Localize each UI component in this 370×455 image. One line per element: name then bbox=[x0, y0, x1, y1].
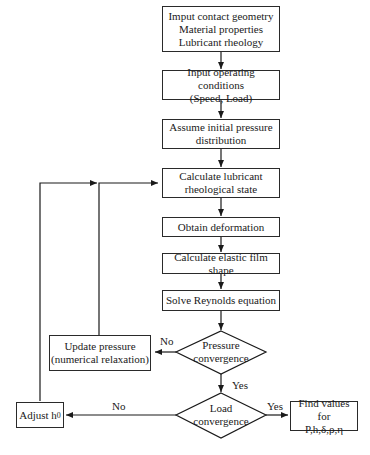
node-text: (numerical relaxation) bbox=[51, 353, 149, 366]
node-text: Material properties bbox=[179, 23, 263, 36]
node-text: Calculate lubricant bbox=[179, 170, 262, 183]
node-text: distribution bbox=[196, 134, 247, 147]
node-text: Assume initial pressure bbox=[169, 121, 272, 134]
node-update-pressure: Update pressure (numerical relaxation) bbox=[49, 335, 151, 371]
node-assume-pressure: Assume initial pressure distribution bbox=[162, 119, 280, 149]
node-text: Solve Reynolds equation bbox=[166, 294, 276, 307]
edge-label-pressure-no: No bbox=[160, 335, 173, 347]
node-text: Load bbox=[186, 402, 256, 415]
edge-label-load-yes: Yes bbox=[267, 400, 283, 412]
node-pressure-convergence: Pressure convergence bbox=[186, 339, 256, 365]
edge-label-load-no: No bbox=[112, 400, 125, 412]
node-text: Input operating conditions bbox=[163, 66, 279, 92]
node-text: convergence bbox=[186, 415, 256, 428]
node-text: Update pressure bbox=[64, 340, 135, 353]
node-reynolds: Solve Reynolds equation bbox=[162, 290, 280, 311]
subscript: 0 bbox=[57, 409, 61, 422]
node-input-geometry: Imput contact geometry Material properti… bbox=[162, 6, 280, 52]
edge-label-pressure-yes: Yes bbox=[232, 379, 248, 391]
node-input-conditions: Input operating conditions (Speed, Load) bbox=[162, 70, 280, 100]
node-text: Lubricant rheology bbox=[179, 36, 264, 49]
node-load-convergence: Load convergence bbox=[186, 402, 256, 428]
node-text: Pressure bbox=[186, 339, 256, 352]
node-find-values: Find values for P,h,δ,ρ,η bbox=[290, 401, 358, 431]
node-film-shape: Calculate elastic film shape bbox=[162, 253, 280, 274]
node-text: Obtain deformation bbox=[178, 221, 264, 234]
node-text: P,h,δ,ρ,η bbox=[305, 423, 343, 436]
node-text: Find values for bbox=[291, 397, 357, 423]
node-text: (Speed, Load) bbox=[190, 92, 252, 105]
node-adjust-h0: Adjust h0 bbox=[16, 402, 64, 428]
node-deformation: Obtain deformation bbox=[162, 217, 280, 237]
node-text: Imput contact geometry bbox=[168, 10, 273, 23]
node-calc-rheology: Calculate lubricant rheological state bbox=[162, 168, 280, 198]
node-text: Calculate elastic film shape bbox=[163, 251, 279, 277]
node-text: Adjust h bbox=[19, 409, 57, 422]
node-text: convergence bbox=[186, 352, 256, 365]
node-text: rheological state bbox=[185, 183, 257, 196]
